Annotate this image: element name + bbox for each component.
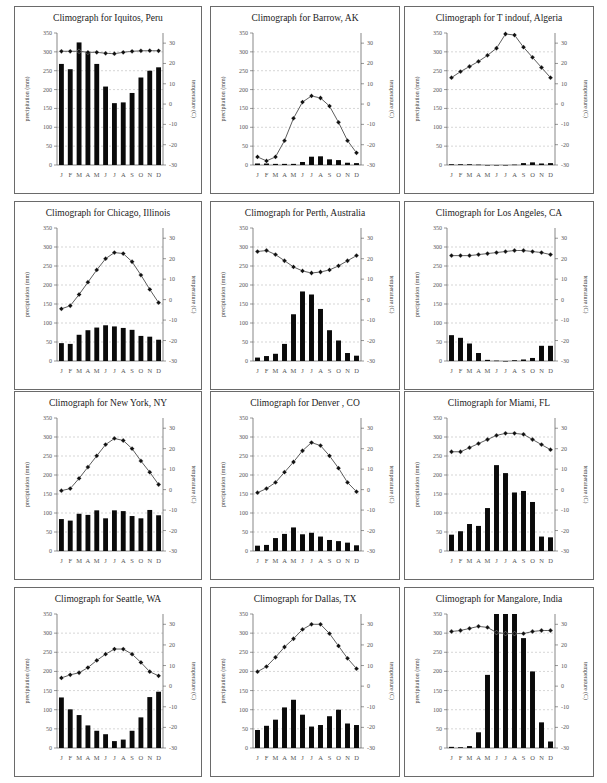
precipitation-bar — [147, 337, 152, 361]
precipitation-bar — [300, 291, 305, 361]
temperature-line — [258, 624, 357, 671]
month-label: S — [522, 754, 526, 761]
right-tick-label: 10 — [169, 663, 175, 669]
temperature-marker — [467, 64, 472, 69]
precipitation-bar — [354, 545, 359, 551]
right-axis-title: temperature (C) — [582, 275, 589, 313]
temperature-marker — [112, 436, 117, 441]
right-tick-label: 0 — [367, 683, 370, 689]
right-tick-label: -20 — [169, 142, 177, 148]
month-label: J — [60, 171, 63, 178]
left-tick-label: 200 — [433, 87, 442, 93]
right-tick-label: 0 — [169, 297, 172, 303]
right-tick-label: -20 — [561, 528, 569, 534]
left-tick-label: 150 — [43, 105, 52, 111]
temperature-marker — [139, 48, 144, 53]
left-tick-label: 250 — [239, 68, 248, 74]
temperature-marker — [449, 449, 454, 454]
temperature-marker — [458, 69, 463, 74]
month-label: F — [68, 557, 72, 564]
precipitation-bar — [503, 473, 508, 551]
month-label: F — [459, 754, 463, 761]
left-tick-label: 150 — [239, 105, 248, 111]
right-tick-label: 30 — [367, 40, 373, 46]
right-tick-label: 0 — [367, 297, 370, 303]
left-tick-label: 300 — [433, 434, 442, 440]
month-label: J — [113, 557, 116, 564]
precipitation-bar — [130, 516, 135, 551]
precipitation-bar — [354, 356, 359, 361]
left-tick-label: 250 — [43, 263, 52, 269]
precipitation-bar — [539, 163, 544, 165]
precipitation-bar — [291, 314, 296, 361]
month-label: A — [318, 557, 323, 564]
right-tick-label: -10 — [561, 704, 569, 710]
right-tick-label: -10 — [169, 121, 177, 127]
precipitation-bar — [476, 353, 481, 361]
precipitation-bar — [156, 340, 161, 361]
temperature-marker — [345, 258, 350, 263]
month-label: A — [121, 557, 126, 564]
month-label: J — [450, 557, 453, 564]
left-tick-label: 50 — [436, 339, 442, 345]
right-tick-label: 10 — [561, 276, 567, 282]
precipitation-bar — [300, 534, 305, 551]
left-tick-label: 100 — [239, 707, 248, 713]
chart-title: Climograph for Seattle, WA — [55, 594, 162, 604]
left-tick-label: 350 — [239, 415, 248, 421]
left-tick-label: 150 — [239, 301, 248, 307]
temperature-marker — [503, 32, 508, 37]
month-label: J — [113, 367, 116, 374]
month-label: F — [68, 754, 72, 761]
left-tick-label: 300 — [43, 630, 52, 636]
right-tick-label: 0 — [367, 487, 370, 493]
precipitation-bar — [103, 518, 108, 551]
right-tick-label: 10 — [561, 81, 567, 87]
climograph-panel: Climograph for Iquitos, Peru050100150200… — [14, 6, 202, 194]
left-tick-label: 250 — [239, 453, 248, 459]
month-label: A — [282, 367, 287, 374]
left-tick-label: 100 — [433, 320, 442, 326]
precipitation-bar — [485, 360, 490, 361]
month-label: O — [530, 557, 535, 564]
right-tick-label: -10 — [561, 507, 569, 513]
month-label: N — [147, 754, 152, 761]
right-tick-label: 30 — [561, 235, 567, 241]
right-tick-label: 10 — [169, 466, 175, 472]
precipitation-bar — [345, 543, 350, 551]
month-label: N — [345, 367, 350, 374]
month-label: A — [282, 557, 287, 564]
temperature-marker — [318, 270, 323, 275]
right-axis-title: temperature (C) — [190, 80, 197, 118]
month-label: N — [539, 754, 544, 761]
month-label: A — [121, 367, 126, 374]
month-label: N — [539, 557, 544, 564]
right-tick-label: 0 — [561, 487, 564, 493]
chart-title: Climograph for Perth, Australia — [245, 208, 366, 218]
month-label: J — [301, 557, 304, 564]
precipitation-bar — [318, 537, 323, 551]
month-label: M — [485, 367, 491, 374]
precipitation-bar — [476, 165, 481, 166]
chart-title: Climograph for Miami, FL — [448, 398, 551, 408]
precipitation-bar — [327, 330, 332, 361]
left-tick-label: 250 — [433, 68, 442, 74]
right-axis-title: temperature (C) — [582, 80, 589, 118]
precipitation-bar — [77, 42, 82, 165]
left-axis-title: precipitation (mm) — [220, 76, 227, 121]
month-label: J — [256, 557, 259, 564]
right-tick-label: -30 — [169, 745, 177, 751]
right-tick-label: 10 — [367, 81, 373, 87]
month-label: M — [291, 557, 297, 564]
month-label: J — [310, 367, 313, 374]
temperature-marker — [476, 441, 481, 446]
temperature-marker — [548, 447, 553, 452]
temperature-marker — [59, 488, 64, 493]
left-tick-label: 350 — [43, 225, 52, 231]
month-label: O — [139, 171, 144, 178]
temperature-marker — [458, 449, 463, 454]
month-label: N — [345, 171, 350, 178]
left-tick-label: 100 — [433, 510, 442, 516]
precipitation-bar — [530, 502, 535, 551]
right-tick-label: 30 — [169, 621, 175, 627]
